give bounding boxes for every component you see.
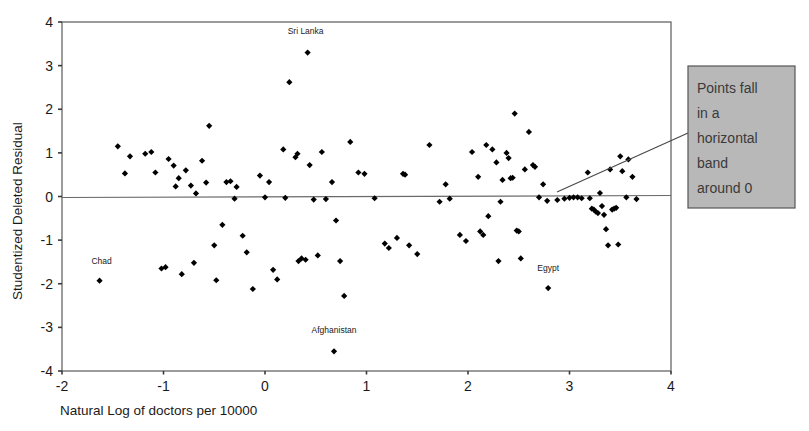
callout-line: band [697,155,728,171]
callout-line: around 0 [697,180,752,196]
data-point [599,203,605,209]
x-tick-label: 3 [566,378,574,394]
data-point [286,79,292,85]
data-point-chad [96,278,102,284]
callout-annotation: Points fallin ahorizontalbandaround 0 [557,66,795,208]
x-tick-label: 2 [464,378,472,394]
data-point [257,172,263,178]
point-label-afghanistan: Afghanistan [312,325,357,335]
data-point [311,196,317,202]
data-point [485,213,491,219]
chart-canvas: Sri LankaChadEgyptAfghanistan -2-101234 … [0,0,809,431]
point-labels: Sri LankaChadEgyptAfghanistan [91,26,559,354]
data-point [497,199,503,205]
data-point [436,199,442,205]
y-tick-label: 3 [45,58,53,74]
data-point [233,184,239,190]
data-point [619,168,625,174]
data-point [544,198,550,204]
data-point [127,153,133,159]
data-point [536,194,542,200]
point-label-egypt: Egypt [537,263,559,273]
data-point [483,142,489,148]
data-point [115,143,121,149]
data-point [191,260,197,266]
x-tick-label: 4 [667,378,675,394]
callout-line: horizontal [697,130,758,146]
data-point [585,169,591,175]
y-tick-label: 2 [45,101,53,117]
data-point [633,196,639,202]
data-point [601,212,607,218]
data-point [227,178,233,184]
x-tick-label: 0 [261,378,269,394]
x-tick-label: -1 [157,378,170,394]
data-point [262,194,268,200]
x-tick-label: -2 [56,378,69,394]
data-point [561,196,567,202]
point-label-sri-lanka: Sri Lanka [288,26,324,36]
data-point [183,167,189,173]
y-tick-label: -4 [41,363,54,379]
data-points [115,79,640,299]
y-tick-label: 0 [45,189,53,205]
data-point [165,156,171,162]
data-point [540,181,546,187]
data-point [213,277,219,283]
data-point [142,151,148,157]
data-point [603,226,609,232]
x-axis-title: Natural Log of doctors per 10000 [60,403,257,418]
data-point [270,267,276,273]
y-tick-label: 4 [45,14,53,30]
data-point [382,241,388,247]
data-point [171,162,177,168]
data-point [280,146,286,152]
callout-leader-line [557,133,688,192]
data-point [266,179,272,185]
callout-line: Points fall [697,80,758,96]
data-point [307,162,313,168]
callout-line: in a [697,105,720,121]
data-point [203,179,209,185]
data-point [394,235,400,241]
data-point [188,182,194,188]
y-tick-label: -3 [41,319,54,335]
data-point [406,242,412,248]
data-point [122,170,128,176]
point-label-chad: Chad [91,256,112,266]
data-point [617,153,623,159]
y-tick-label: 1 [45,145,53,161]
y-axis-title: Studentized Deleted Residual [10,122,25,300]
data-point [457,232,463,238]
data-point [386,245,392,251]
data-point [493,159,499,165]
data-point [605,242,611,248]
y-tick-label: -1 [41,232,54,248]
data-point [463,238,469,244]
data-point [333,217,339,223]
data-point [179,271,185,277]
data-point [489,146,495,152]
data-point-sri-lanka [305,49,311,55]
data-point [337,258,343,264]
x-tick-label: 1 [363,378,371,394]
data-point [495,258,501,264]
data-point [526,129,532,135]
data-point-afghanistan [331,348,337,354]
data-point [615,241,621,247]
data-point [199,158,205,164]
data-point [554,197,560,203]
data-point [629,174,635,180]
data-point [148,149,154,155]
data-point [282,195,288,201]
data-point [244,249,250,255]
data-point [512,111,518,117]
data-point [475,174,481,180]
data-point [206,123,212,129]
data-point-egypt [545,285,551,291]
data-point [173,183,179,189]
data-point [193,190,199,196]
scatter-plot-figure: Sri LankaChadEgyptAfghanistan -2-101234 … [0,0,809,431]
y-tick-label: -2 [41,276,54,292]
data-point [361,171,367,177]
